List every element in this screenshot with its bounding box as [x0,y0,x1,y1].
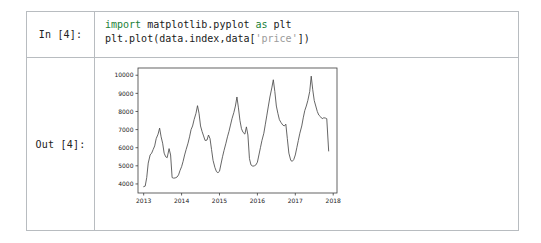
y-tick-label: 7000 [118,126,133,133]
code-token-import: import [105,19,141,30]
code-token-close: ]) [298,33,310,44]
notebook-cell: In [4]: import matplotlib.pyplot as plt … [26,11,519,231]
input-cell-row: In [4]: import matplotlib.pyplot as plt … [27,12,518,58]
series-price-line [144,76,329,187]
code-token-module: matplotlib.pyplot [141,19,255,30]
line-chart: 40005000600070008000900010000 2013201420… [103,60,343,212]
x-tick-label: 2016 [250,197,265,204]
output-cell-row: Out [4]: 40005000600070008000900010000 2… [27,58,518,230]
x-tick-label: 2013 [136,197,151,204]
x-tick-label: 2017 [288,197,303,204]
x-tick-label: 2014 [174,197,189,204]
x-tick-label: 2018 [326,197,341,204]
y-tick-label: 4000 [118,180,133,187]
code-editor[interactable]: import matplotlib.pyplot as plt plt.plot… [95,12,518,57]
y-tick-label: 9000 [118,90,133,97]
y-tick-label: 6000 [118,144,133,151]
y-axis-ticks: 40005000600070008000900010000 [114,71,138,187]
plot-frame [138,68,337,193]
code-token-alias: plt [268,19,292,30]
input-prompt: In [4]: [27,12,95,57]
code-token-string: 'price' [256,33,298,44]
output-prompt: Out [4]: [27,58,95,230]
y-tick-label: 10000 [114,71,133,78]
x-tick-label: 2015 [212,197,227,204]
x-axis-ticks: 201320142015201620172018 [136,193,341,204]
code-source: import matplotlib.pyplot as plt plt.plot… [105,18,518,46]
matplotlib-figure: 40005000600070008000900010000 2013201420… [103,60,343,212]
output-area: 40005000600070008000900010000 2013201420… [95,58,518,230]
y-tick-label: 8000 [118,108,133,115]
code-token-plotcall: plt.plot(data.index,data[ [105,33,256,44]
code-token-as: as [256,19,268,30]
y-tick-label: 5000 [118,162,133,169]
